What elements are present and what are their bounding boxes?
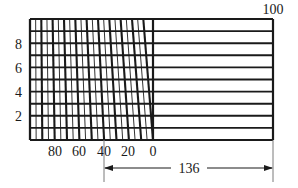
figure-container: 8 6 4 2 80 60 40 20 0 100 136 [0, 0, 298, 188]
x-tick-label-60: 60 [72, 144, 86, 159]
y-tick-label-4: 4 [15, 85, 22, 100]
x-tick-label-20: 20 [121, 144, 135, 159]
x-tick-label-80: 80 [48, 144, 62, 159]
mesh-diagram: 8 6 4 2 80 60 40 20 0 100 136 [0, 0, 298, 188]
y-tick-label-2: 2 [15, 109, 22, 124]
x-tick-label-0: 0 [150, 144, 157, 159]
arrow-left-icon [104, 165, 113, 171]
y-tick-label-8: 8 [15, 37, 22, 52]
arrow-right-icon [264, 165, 273, 171]
dimension-value-label: 136 [179, 161, 200, 176]
corner-label-100: 100 [263, 2, 284, 17]
y-tick-label-6: 6 [15, 61, 22, 76]
